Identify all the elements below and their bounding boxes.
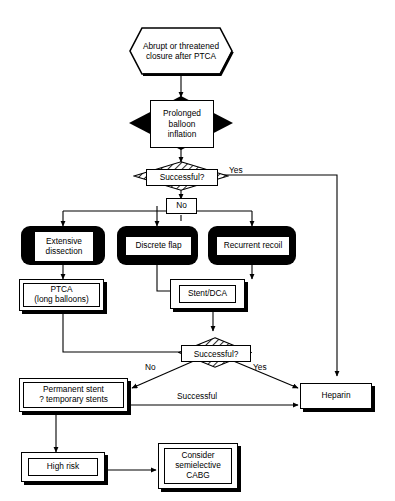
node-permanent-stent: Permanent stent ? temporary stents [19, 378, 128, 412]
no2-text: No [145, 362, 156, 372]
node-extensive-dissection: Extensive dissection [21, 226, 105, 265]
node-start: Abrupt or threatened closure after PTCA [128, 26, 234, 76]
cabg-line-3: CABG [186, 470, 210, 480]
yes1-text: Yes [229, 165, 243, 175]
node-heparin: Heparin [300, 383, 372, 409]
successful-text: Successful [177, 391, 217, 401]
start-line-1: Abrupt or threatened [143, 41, 219, 51]
node-consider-cabg: Consider semielective CABG [158, 443, 238, 489]
cabg-line-1: Consider [181, 450, 214, 460]
no-badge-text: No [176, 201, 187, 210]
node-recurrent-recoil-label: Recurrent recoil [216, 236, 290, 256]
flap-text: Discrete flap [135, 241, 181, 251]
edge-label-yes-1: Yes [229, 165, 243, 175]
ptca-line-2: (long balloons) [34, 294, 88, 304]
node-ptca: PTCA (long balloons) [19, 279, 104, 311]
node-prolonged-balloon-inflation: Prolonged balloon inflation [129, 96, 233, 150]
ptca-line-1: PTCA [50, 284, 72, 294]
node-decision-successful-2-label: Successful? [181, 345, 251, 362]
recoil-text: Recurrent recoil [224, 241, 283, 251]
edge-label-no-2: No [145, 362, 156, 372]
node-prolonged-balloon-inflation-label: Prolonged balloon inflation [150, 100, 214, 148]
stent-text: Stent/DCA [188, 289, 227, 299]
heparin-text: Heparin [321, 391, 350, 401]
node-extensive-dissection-label: Extensive dissection [34, 231, 94, 262]
node-recurrent-recoil: Recurrent recoil [208, 226, 296, 265]
node-permanent-stent-label: Permanent stent ? temporary stents [23, 382, 124, 408]
node-decision-successful-2: Successful? [178, 337, 252, 368]
cabg-line-2: semielective [175, 460, 221, 470]
prolonged-line-3: inflation [168, 129, 197, 139]
prolonged-line-2: balloon [169, 119, 196, 129]
node-start-label: Abrupt or threatened closure after PTCA [128, 26, 234, 76]
permanent-line-1: Permanent stent [43, 384, 104, 394]
extensive-line-2: dissection [46, 246, 83, 256]
node-stent-dca-label: Stent/DCA [179, 285, 236, 303]
prolonged-line-1: Prolonged [163, 108, 201, 118]
node-heparin-label: Heparin [301, 384, 371, 408]
high-risk-text: High risk [47, 462, 79, 472]
extensive-line-1: Extensive [46, 236, 82, 246]
flowchart-canvas: Abrupt or threatened closure after PTCA … [0, 0, 395, 501]
node-discrete-flap: Discrete flap [117, 226, 198, 265]
node-discrete-flap-label: Discrete flap [125, 236, 192, 256]
edge-label-yes-2: Yes [253, 362, 267, 372]
node-decision-successful-1: Successful? [133, 161, 229, 191]
node-high-risk: High risk [21, 452, 105, 482]
node-ptca-label: PTCA (long balloons) [23, 283, 100, 307]
node-high-risk-label: High risk [28, 458, 98, 476]
decision1-text: Successful? [160, 172, 205, 182]
decision2-text: Successful? [194, 349, 239, 359]
node-consider-cabg-label: Consider semielective CABG [164, 448, 232, 484]
permanent-line-2: ? temporary stents [39, 394, 108, 404]
node-no-badge: No [166, 198, 197, 214]
yes2-text: Yes [253, 362, 267, 372]
node-stent-dca: Stent/DCA [170, 279, 245, 309]
edge-label-successful: Successful [177, 391, 217, 401]
start-line-2: closure after PTCA [146, 51, 216, 61]
node-decision-successful-1-label: Successful? [146, 169, 218, 186]
